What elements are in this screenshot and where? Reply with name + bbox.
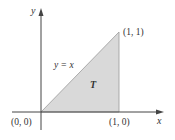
region-t (41, 32, 119, 112)
x-axis-arrow-icon (156, 110, 164, 115)
diagram-canvas: y x (1, 1) (0, 0) (1, 0) y = x T (0, 0, 175, 140)
point-label-origin: (0, 0) (11, 117, 32, 128)
y-axis-arrow-icon (39, 8, 44, 16)
region-label-t: T (90, 79, 97, 90)
point-label-1-0: (1, 0) (109, 117, 130, 128)
line-label-y-equals-x: y = x (53, 60, 74, 70)
point-label-1-1: (1, 1) (123, 27, 144, 38)
y-axis-label: y (30, 5, 36, 16)
x-axis-label: x (156, 115, 162, 126)
triangle-region-diagram: y x (1, 1) (0, 0) (1, 0) y = x T (0, 0, 175, 140)
